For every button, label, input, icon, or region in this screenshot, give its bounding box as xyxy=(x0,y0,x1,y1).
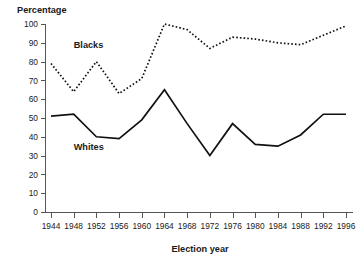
y-tick-label: 60 xyxy=(29,94,39,104)
line-chart: Percentage 0102030405060708090100 194419… xyxy=(0,0,360,262)
series-label-blacks: Blacks xyxy=(74,40,104,50)
x-tick-label: 1988 xyxy=(291,221,310,231)
series-label-whites: Whites xyxy=(74,142,104,152)
y-tick-label: 100 xyxy=(24,19,38,29)
x-tick-label: 1968 xyxy=(178,221,197,231)
chart-container: Percentage 0102030405060708090100 194419… xyxy=(0,0,360,262)
x-tick-label: 1976 xyxy=(223,221,242,231)
x-axis-title: Election year xyxy=(171,244,229,254)
y-tick-label: 10 xyxy=(29,188,39,198)
y-tick-label: 40 xyxy=(29,132,39,142)
y-tick-label: 0 xyxy=(33,207,38,217)
y-axis-title: Percentage xyxy=(17,5,67,15)
x-tick-label: 1956 xyxy=(110,221,129,231)
y-tick-label: 80 xyxy=(29,57,39,67)
x-tick-label: 1964 xyxy=(155,221,174,231)
x-tick-label: 1960 xyxy=(132,221,151,231)
series-annotations: BlacksWhites xyxy=(74,40,104,152)
x-tick-label: 1984 xyxy=(269,221,288,231)
x-tick-label: 1972 xyxy=(201,221,220,231)
x-tick-label: 1944 xyxy=(42,221,61,231)
y-tick-label: 20 xyxy=(29,170,39,180)
y-axis-title-group: Percentage xyxy=(17,5,67,15)
y-tick-label: 50 xyxy=(29,113,39,123)
y-tick-label: 30 xyxy=(29,151,39,161)
y-tick-label: 90 xyxy=(29,38,39,48)
y-tick-group: 0102030405060708090100 xyxy=(24,19,45,217)
x-tick-label: 1948 xyxy=(64,221,83,231)
x-tick-label: 1980 xyxy=(246,221,265,231)
x-tick-label: 1952 xyxy=(87,221,106,231)
y-tick-label: 70 xyxy=(29,76,39,86)
x-tick-label: 1996 xyxy=(337,221,356,231)
series-line-blacks xyxy=(51,24,346,94)
x-tick-label: 1992 xyxy=(314,221,333,231)
x-tick-group: 1944194819521956196019641968197219761980… xyxy=(42,213,356,232)
